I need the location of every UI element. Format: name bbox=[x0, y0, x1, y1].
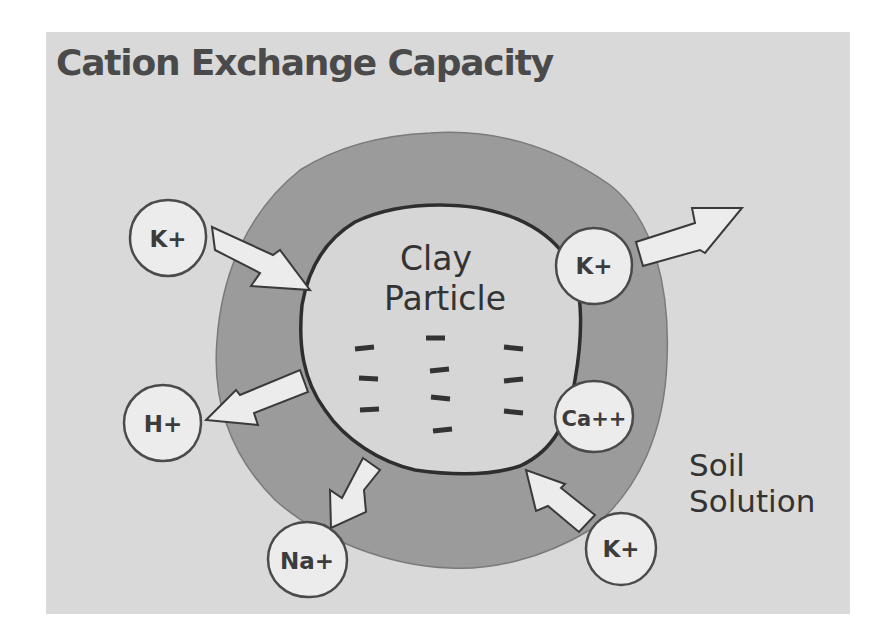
clay-label-line1: Clay bbox=[400, 239, 472, 278]
ion-label-k-top-left: K+ bbox=[149, 226, 186, 252]
ion-label-na: Na+ bbox=[280, 548, 334, 574]
arrow-k-out-top-right bbox=[636, 208, 742, 266]
ion-label-k-top-right: K+ bbox=[575, 253, 612, 279]
soil-label-line2: Solution bbox=[689, 483, 815, 519]
ion-label-ca: Ca++ bbox=[562, 407, 627, 431]
cec-diagram: K+ K+ H+ Ca++ Na+ K+ Clay Particle Soil … bbox=[0, 0, 892, 639]
ion-label-h: H+ bbox=[144, 411, 183, 437]
clay-label-line2: Particle bbox=[384, 279, 506, 318]
ion-label-k-bottom-right: K+ bbox=[602, 536, 639, 562]
soil-label-line1: Soil bbox=[689, 447, 745, 483]
